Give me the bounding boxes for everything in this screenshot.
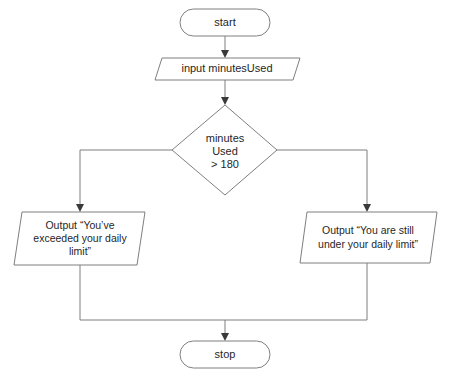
connector-decision-to-output-exceeded	[80, 150, 172, 206]
arrowhead-output-exceeded	[76, 204, 84, 212]
node-output-exceeded[interactable]: Output “You’ve exceeded your daily limit…	[14, 212, 145, 265]
decision-label-line2: Used	[212, 145, 238, 157]
node-input-minutesused[interactable]: input minutesUsed	[155, 58, 300, 80]
output-under-label-line2: under your daily limit”	[318, 238, 418, 250]
output-exceeded-label-line3: limit”	[69, 245, 92, 257]
node-output-under[interactable]: Output “You are still under your daily l…	[300, 212, 437, 263]
node-stop[interactable]: stop	[180, 341, 270, 368]
node-decision-minutesused-gt-180[interactable]: minutes Used > 180	[172, 105, 277, 195]
arrowhead-output-under	[363, 204, 371, 212]
output-exceeded-label-line2: exceeded your daily	[33, 232, 127, 244]
node-start[interactable]: start	[180, 9, 270, 36]
decision-label-line1: minutes	[206, 132, 245, 144]
arrowhead-decision	[221, 97, 229, 105]
flowchart-svg: start input minutesUsed minutes Used > 1…	[0, 0, 449, 383]
connector-decision-to-output-under	[277, 150, 367, 206]
decision-label-line3: > 180	[211, 158, 239, 170]
output-exceeded-label-line1: Output “You’ve	[45, 219, 114, 231]
connector-output-exceeded-to-merge	[80, 265, 225, 320]
connector-output-under-to-merge	[225, 263, 367, 320]
start-label: start	[214, 16, 235, 28]
stop-label: stop	[215, 348, 236, 360]
input-label: input minutesUsed	[181, 62, 272, 74]
arrowhead-input	[221, 50, 229, 58]
flowchart-canvas: start input minutesUsed minutes Used > 1…	[0, 0, 449, 383]
output-under-label-line1: Output “You are still	[322, 224, 414, 236]
arrowhead-stop	[221, 333, 229, 341]
